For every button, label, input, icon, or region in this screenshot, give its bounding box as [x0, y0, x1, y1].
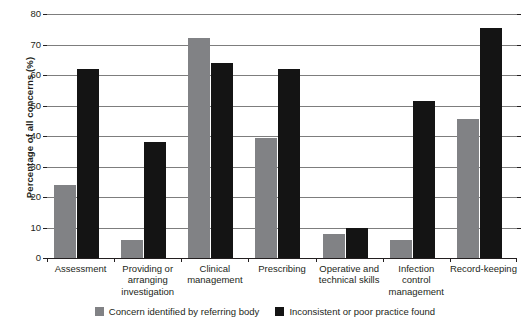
y-tick-label-60: 60	[30, 70, 41, 80]
bar-group	[383, 14, 450, 258]
y-tick-mark-right-50	[517, 106, 521, 107]
legend-label: Concern identified by referring body	[109, 306, 260, 317]
y-tick-label-50: 50	[30, 101, 41, 111]
bar	[390, 240, 412, 258]
bar	[323, 234, 345, 258]
x-axis-tick	[450, 258, 451, 262]
x-axis-tick	[181, 258, 182, 262]
x-axis-tick	[383, 258, 384, 262]
y-tick-label-30: 30	[30, 162, 41, 172]
x-axis-tick	[316, 258, 317, 262]
bar	[457, 119, 479, 258]
chart-legend: Concern identified by referring bodyInco…	[0, 306, 530, 317]
bar	[121, 240, 143, 258]
bar	[278, 69, 300, 258]
bar-group	[181, 14, 248, 258]
x-axis-tick	[248, 258, 249, 262]
y-tick-mark-right-60	[517, 75, 521, 76]
x-axis-label: Prescribing	[248, 263, 315, 274]
y-tick-label-40: 40	[30, 131, 41, 141]
bar	[77, 69, 99, 258]
y-tick-mark-right-70	[517, 45, 521, 46]
y-tick-mark-right-80	[517, 14, 521, 15]
bar	[480, 28, 502, 258]
y-tick-mark-right-40	[517, 136, 521, 137]
y-tick-label-10: 10	[30, 223, 41, 233]
y-tick-label-70: 70	[30, 40, 41, 50]
y-tick-label-80: 80	[30, 9, 41, 19]
bar-chart: Percentage of all concerns (%) 807060504…	[0, 0, 530, 330]
bar	[413, 101, 435, 258]
x-axis-label: Assessment	[47, 263, 114, 274]
y-tick-label-0: 0	[36, 253, 41, 263]
legend-item: Concern identified by referring body	[95, 306, 260, 317]
bar	[346, 228, 368, 259]
x-axis-end-tick	[47, 258, 48, 262]
gridline-0	[47, 258, 517, 259]
legend-item: Inconsistent or poor practice found	[275, 306, 435, 317]
y-axis-title: Percentage of all concerns (%)	[24, 18, 35, 238]
x-axis-label: Clinical management	[181, 263, 248, 286]
bar	[211, 63, 233, 258]
bar	[144, 142, 166, 258]
x-axis-label: Operative and technical skills	[316, 263, 383, 286]
x-axis-label: Infection control management	[383, 263, 450, 297]
x-axis-label: Providing or arranging investigation	[114, 263, 181, 297]
bar-group	[450, 14, 517, 258]
bar-group	[47, 14, 114, 258]
x-axis-end-tick	[516, 258, 517, 262]
bar-group	[114, 14, 181, 258]
bar-group	[316, 14, 383, 258]
bar	[188, 38, 210, 258]
bar	[54, 185, 76, 258]
x-axis-tick	[114, 258, 115, 262]
legend-swatch-icon	[95, 307, 104, 316]
bar-group	[248, 14, 315, 258]
legend-label: Inconsistent or poor practice found	[289, 306, 435, 317]
x-axis-label: Record-keeping	[450, 263, 517, 274]
plot-area: 80706050403020100	[47, 14, 517, 258]
y-tick-mark-right-10	[517, 228, 521, 229]
bar	[255, 138, 277, 258]
y-tick-mark-right-20	[517, 197, 521, 198]
y-tick-label-20: 20	[30, 192, 41, 202]
y-tick-mark-right-30	[517, 167, 521, 168]
legend-swatch-icon	[275, 307, 284, 316]
